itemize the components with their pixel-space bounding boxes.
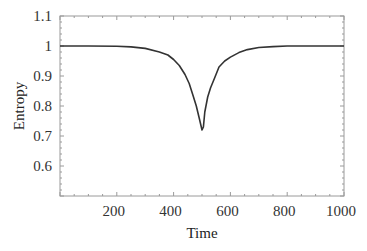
axis-ticks [60,16,344,196]
y-tick-label: 0.9 [33,68,52,84]
x-tick-label: 800 [273,203,296,219]
y-tick-label: 1.1 [33,8,52,24]
y-tick-label: 1 [45,38,53,54]
entropy-series-line [60,46,344,130]
plot-area-border [60,16,344,196]
x-tick-label: 1000 [326,203,356,219]
x-axis-label: Time [186,225,217,241]
x-tick-labels: 2004006008001000 [103,203,356,219]
y-tick-label: 0.7 [33,128,52,144]
y-axis-label: Entropy [11,81,27,130]
y-tick-labels: 0.60.70.80.911.1 [33,8,52,174]
x-tick-label: 200 [103,203,126,219]
x-tick-label: 400 [159,203,182,219]
x-tick-label: 600 [216,203,239,219]
entropy-line-chart: 0.60.70.80.911.1 2004006008001000 Time E… [0,0,367,251]
y-tick-label: 0.6 [33,158,52,174]
plot-frame [60,16,344,196]
y-tick-label: 0.8 [33,98,52,114]
